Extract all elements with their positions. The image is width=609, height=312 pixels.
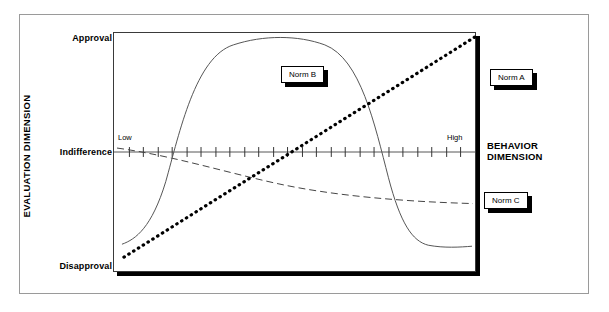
callout-norm-b-box: Norm B (281, 66, 324, 83)
y-axis-title: EVALUATION DIMENSION (21, 95, 32, 218)
y-tick-label-approval: Approval (72, 33, 112, 43)
callout-norm-a-box: Norm A (490, 69, 533, 86)
behavior-axis (114, 147, 475, 157)
callout-norm-b: Norm B (281, 66, 324, 83)
x-axis-title-line2: DIMENSION (487, 151, 543, 162)
y-tick-label-disapproval: Disapproval (59, 261, 112, 271)
curve-norm-c (117, 148, 473, 204)
callout-norm-c-box: Norm C (484, 192, 528, 209)
callout-norm-a: Norm A (490, 69, 533, 86)
x-axis-title-line1: BEHAVIOR (487, 140, 538, 151)
x-scale-high-label: High (447, 133, 462, 142)
callout-norm-c: Norm C (484, 192, 528, 209)
figure-container: EVALUATION DIMENSION Approval Indifferen… (0, 0, 609, 312)
x-scale-low-label: Low (118, 133, 132, 142)
y-tick-label-indifference: Indifference (60, 147, 112, 157)
x-axis-title: BEHAVIOR DIMENSION (487, 140, 543, 162)
